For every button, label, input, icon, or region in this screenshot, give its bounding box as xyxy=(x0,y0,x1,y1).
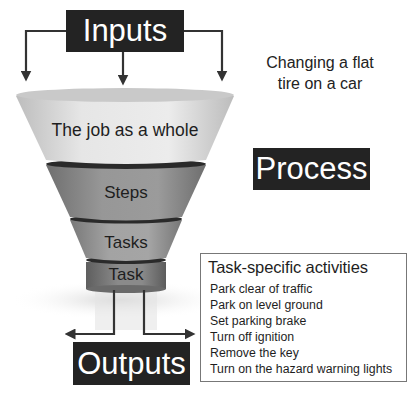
activity-item: Remove the key xyxy=(210,345,406,361)
process-label: Process xyxy=(256,151,368,187)
activity-item: Turn off ignition xyxy=(210,329,406,345)
funnel-reflection xyxy=(95,290,157,330)
outputs-box: Outputs xyxy=(73,342,190,385)
inputs-box: Inputs xyxy=(66,10,184,52)
task-activities-box: Task-specific activities Park clear of t… xyxy=(200,253,407,382)
caption-line-2: tire on a car xyxy=(245,73,395,94)
activity-item: Set parking brake xyxy=(210,313,406,329)
activity-item: Park clear of traffic xyxy=(210,281,406,297)
caption-line-1: Changing a flat xyxy=(245,52,395,73)
funnel-label-tasks: Tasks xyxy=(70,233,182,253)
diagram-caption: Changing a flat tire on a car xyxy=(245,52,395,94)
funnel-label-task: Task xyxy=(86,265,166,285)
activities-list: Park clear of traffic Park on level grou… xyxy=(208,281,406,377)
process-box: Process xyxy=(253,148,370,190)
funnel-label-steps: Steps xyxy=(60,183,192,203)
activity-item: Park on level ground xyxy=(210,297,406,313)
outputs-label: Outputs xyxy=(77,346,186,382)
inputs-label: Inputs xyxy=(83,13,167,49)
activity-item: Turn on the hazard warning lights xyxy=(210,361,406,377)
funnel-label-job: The job as a whole xyxy=(30,120,220,141)
activities-title: Task-specific activities xyxy=(208,258,406,277)
